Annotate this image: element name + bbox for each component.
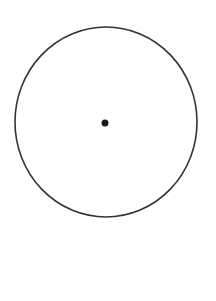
diagram-canvas	[0, 0, 216, 301]
center-point	[102, 120, 109, 127]
background	[0, 0, 216, 301]
